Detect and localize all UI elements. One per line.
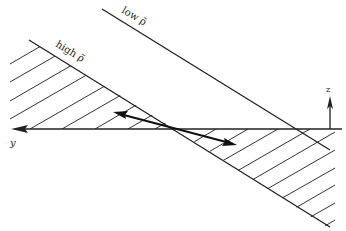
- high-density-line: [29, 40, 330, 227]
- low-density-label: low ρ̃: [120, 4, 149, 27]
- y-axis-label: y: [9, 137, 16, 148]
- hatch-right: [180, 121, 335, 231]
- diagram: low ρ̃ high ρ̃ y z: [0, 0, 346, 231]
- z-axis: [327, 96, 333, 129]
- high-density-label: high ρ̃: [54, 38, 87, 64]
- z-axis-label: z: [326, 85, 330, 94]
